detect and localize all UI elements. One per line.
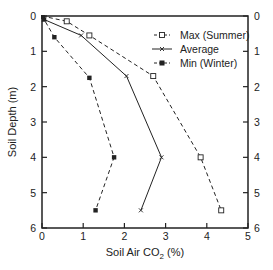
- soil-co2-depth-chart: 0123456 0123456 012345 Soil Depth (m) So…: [0, 0, 273, 270]
- right-y-tick-label: 5: [254, 187, 260, 199]
- x-axis: 012345: [39, 223, 251, 242]
- legend-item-min: Min (Winter): [154, 57, 237, 69]
- open-square-marker-icon: [198, 155, 203, 160]
- y-tick-label: 2: [30, 81, 36, 93]
- right-y-tick-label: 2: [254, 81, 260, 93]
- svg-text:Min (Winter): Min (Winter): [180, 57, 237, 69]
- open-square-marker-icon: [151, 74, 156, 79]
- y-axis-left: 0123456: [30, 10, 47, 234]
- x-tick-label: 2: [121, 230, 127, 242]
- legend-item-max: Max (Summer): [154, 29, 249, 41]
- y-tick-label: 3: [30, 116, 36, 128]
- legend: Max (Summer) Average Min (Winter): [152, 29, 249, 69]
- y-tick-label: 0: [30, 10, 36, 22]
- x-marker-icon: [124, 74, 128, 78]
- legend-item-average: Average: [152, 43, 219, 55]
- x-marker-icon: [159, 155, 163, 159]
- x-marker-icon: [139, 208, 143, 212]
- x-tick-label: 5: [245, 230, 251, 242]
- open-square-marker-icon: [160, 33, 165, 38]
- svg-text:Max (Summer): Max (Summer): [180, 29, 249, 41]
- right-y-tick-label: 1: [254, 45, 260, 57]
- x-axis-label: Soil Air CO2 (%): [106, 246, 184, 261]
- y-tick-label: 1: [30, 45, 36, 57]
- x-tick-label: 4: [204, 230, 210, 242]
- x-tick-label: 0: [39, 230, 45, 242]
- right-y-tick-label: 0: [254, 10, 260, 22]
- filled-square-marker-icon: [87, 76, 91, 80]
- svg-text:Average: Average: [180, 43, 219, 55]
- filled-square-marker-icon: [112, 155, 116, 159]
- open-square-marker-icon: [87, 33, 92, 38]
- right-y-tick-label: 6: [254, 222, 260, 234]
- y-axis-right: 0123456: [243, 10, 260, 234]
- series-average: [42, 16, 163, 212]
- filled-square-marker-icon: [93, 208, 97, 212]
- open-square-marker-icon: [64, 19, 69, 24]
- x-tick-label: 1: [80, 230, 86, 242]
- y-tick-label: 6: [30, 222, 36, 234]
- filled-square-marker-icon: [160, 61, 165, 66]
- origin-marker-icon: [41, 15, 45, 19]
- y-axis-label: Soil Depth (m): [6, 87, 18, 157]
- y-tick-label: 4: [30, 151, 36, 163]
- right-y-tick-label: 3: [254, 116, 260, 128]
- x-marker-icon: [79, 33, 83, 37]
- y-tick-label: 5: [30, 187, 36, 199]
- right-y-tick-label: 4: [254, 151, 260, 163]
- filled-square-marker-icon: [52, 35, 56, 39]
- x-tick-label: 3: [163, 230, 169, 242]
- open-square-marker-icon: [219, 208, 224, 213]
